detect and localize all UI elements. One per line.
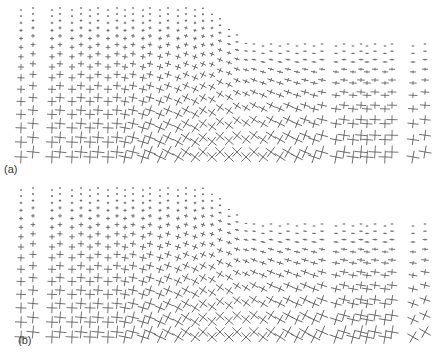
strain-cross — [192, 44, 198, 50]
strain-cross — [420, 101, 430, 109]
strain-cross — [19, 45, 24, 50]
strain-cross — [189, 95, 201, 107]
strain-cross — [370, 269, 380, 276]
strain-cross — [201, 34, 206, 39]
strain-cross — [177, 22, 180, 25]
strain-cross — [88, 45, 93, 50]
strain-cross — [211, 194, 213, 196]
strain-cross — [76, 93, 86, 103]
strain-cross — [390, 59, 395, 61]
strain-cross — [193, 216, 198, 221]
strain-cross — [77, 81, 86, 90]
strain-cross — [131, 206, 134, 209]
strain-cross — [383, 233, 387, 234]
strain-cross — [181, 70, 190, 79]
strain-cross — [26, 131, 39, 144]
strain-cross — [46, 136, 59, 149]
strain-cross — [332, 260, 340, 265]
strain-cross — [116, 187, 118, 189]
strain-cross — [420, 269, 430, 276]
strain-cross — [213, 101, 226, 114]
strain-cross — [410, 70, 416, 73]
strain-cross — [267, 257, 275, 263]
strain-cross — [80, 13, 82, 15]
strain-cross — [89, 22, 92, 25]
strain-cross — [360, 224, 363, 225]
strain-cross — [309, 92, 319, 99]
strain-cross — [226, 60, 233, 66]
strain-cross — [166, 206, 170, 210]
strain-cross — [70, 225, 75, 230]
strain-cross — [200, 51, 207, 58]
strain-cross — [138, 265, 148, 275]
strain-cross — [362, 272, 372, 279]
strain-cross — [142, 144, 159, 161]
strain-cross — [107, 195, 109, 197]
strain-cross — [89, 15, 91, 17]
strain-cross — [329, 298, 343, 310]
strain-cross — [406, 298, 419, 310]
strain-cross — [29, 261, 38, 270]
strain-cross — [166, 26, 170, 30]
strain-cross — [257, 103, 269, 114]
strain-cross — [138, 276, 149, 287]
strain-cross — [129, 60, 136, 67]
strain-cross — [255, 132, 271, 148]
strain-cross — [294, 70, 300, 74]
strain-cross — [95, 61, 102, 68]
strain-cross — [252, 50, 256, 52]
strain-cross — [179, 103, 193, 117]
strain-cross — [211, 14, 213, 16]
strain-cross — [142, 9, 144, 11]
strain-cross — [77, 251, 85, 259]
strain-cross — [269, 230, 273, 232]
strain-cross — [69, 64, 75, 70]
strain-cross — [59, 193, 61, 195]
strain-cross — [69, 54, 75, 60]
strain-cross — [15, 302, 26, 313]
strain-cross — [107, 15, 109, 17]
strain-cross — [68, 265, 76, 273]
strain-cross — [211, 20, 213, 22]
strain-cross — [384, 226, 387, 227]
strain-cross — [20, 189, 22, 191]
strain-cross — [173, 84, 183, 94]
strain-cross — [162, 272, 174, 284]
strain-cross — [258, 91, 268, 100]
strain-cross — [139, 243, 146, 250]
strain-cross — [313, 46, 316, 47]
strain-cross — [350, 241, 355, 243]
strain-cross — [282, 280, 294, 290]
strain-cross — [302, 238, 307, 241]
strain-cross — [89, 189, 91, 191]
strain-cross — [77, 261, 86, 270]
strain-cross — [124, 22, 127, 25]
strain-cross — [263, 307, 279, 323]
strain-cross — [17, 85, 25, 93]
strain-cross — [46, 302, 57, 313]
strain-cross — [185, 199, 188, 202]
strain-cross — [132, 199, 135, 202]
strain-cross — [218, 31, 222, 34]
strain-cross — [357, 78, 365, 82]
strain-cross — [177, 195, 179, 197]
strain-cross — [333, 70, 339, 73]
strain-cross — [279, 46, 282, 47]
strain-cross — [78, 51, 84, 57]
strain-cross — [264, 113, 278, 126]
strain-cross — [242, 258, 250, 265]
strain-cross — [175, 225, 181, 231]
strain-cross — [49, 64, 55, 70]
strain-cross — [79, 206, 82, 209]
strain-cross — [141, 29, 144, 32]
strain-cross — [94, 71, 102, 79]
strain-cross — [182, 240, 190, 248]
strain-cross — [418, 129, 432, 141]
strain-cross — [365, 61, 370, 63]
strain-cross — [217, 227, 223, 232]
strain-cross — [190, 253, 199, 262]
strain-cross — [216, 236, 223, 243]
strain-cross — [29, 251, 37, 259]
strain-cross — [259, 260, 267, 266]
strain-cross — [270, 224, 273, 225]
